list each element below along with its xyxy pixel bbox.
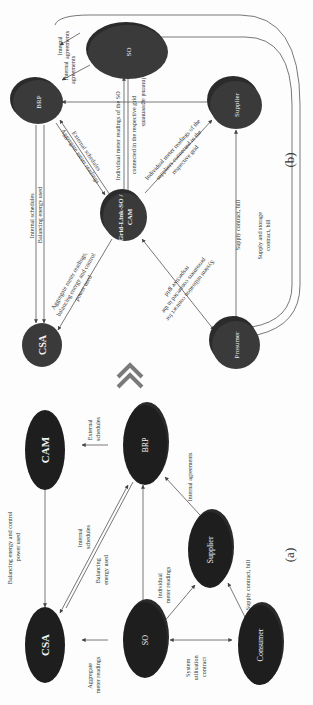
svg-text:SO: SO: [141, 635, 150, 645]
node-brp: BRP: [123, 402, 169, 485]
double-chevron-icon: [118, 365, 142, 387]
label-consumer-supplier: Supply contract, bill: [244, 560, 251, 611]
svg-text:SO: SO: [125, 48, 133, 57]
svg-text:CSA: CSA: [39, 634, 51, 656]
label-b-brp-gridlink: External schedules Aggregate meter readi…: [60, 123, 109, 185]
label-supplier-brp: Internal agreements: [186, 452, 193, 502]
rotated-canvas: CAM BRP Supplier CSA SO Consumer Ba: [0, 0, 313, 705]
svg-text:CSA: CSA: [37, 334, 48, 355]
panel-a: CAM BRP Supplier CSA SO Consumer Ba: [6, 402, 297, 693]
node-consumer: Consumer: [238, 602, 284, 685]
svg-text:Supplier: Supplier: [206, 536, 215, 563]
svg-text:Consumer: Consumer: [256, 628, 265, 661]
node-b-csa: CSA: [22, 323, 62, 367]
label-b-loop: Supply and storage contract, bill: [256, 211, 271, 260]
label-b-brp-so-2: Internal agreements: [62, 55, 76, 84]
caption-b: (b): [282, 152, 297, 167]
label-b-brp-so-1: Internal agreements: [56, 30, 70, 59]
label-brp-csa-2: Balancing energy used: [94, 554, 109, 585]
panel-b: BRP SO Supplier Grid-Link-SO / CAM CSA: [10, 15, 300, 369]
svg-text:CAM: CAM: [39, 436, 51, 463]
svg-text:Supplier: Supplier: [233, 92, 241, 116]
label-b-brp-csa: Internal schedules Balancing energy used: [28, 186, 43, 243]
node-b-gridlink: Grid-Link-SO / CAM: [100, 189, 147, 241]
svg-text:Prosumer: Prosumer: [233, 331, 241, 359]
edge-brp-csa-1: [60, 485, 128, 613]
label-b-so-gridlink: Individual meter readings of the SO conn…: [114, 90, 137, 180]
label-so-supplier: Individual meter readings: [156, 566, 171, 603]
caption-a: (a): [282, 548, 297, 562]
figure-root: CAM BRP Supplier CSA SO Consumer Ba: [0, 0, 313, 705]
node-supplier: Supplier: [188, 509, 234, 588]
edge-consumer-supplier: [228, 583, 245, 617]
node-b-brp: BRP: [10, 77, 63, 124]
svg-text:BRP: BRP: [35, 95, 43, 108]
node-b-prosumer: Prosumer: [209, 316, 260, 369]
node-so: SO: [123, 599, 169, 678]
edge-supplier-brp: [165, 477, 200, 515]
label-so-csa: Aggregate meter readings: [86, 656, 101, 693]
svg-text:BRP: BRP: [141, 437, 150, 453]
label-b-gridlink-prosumer: System utilisation contract for prosumer…: [151, 249, 216, 323]
node-b-so: SO: [86, 22, 168, 79]
label-b-gridlink-supplier: Individual meter readings of the supplie…: [143, 116, 214, 192]
label-brp-cam: External schedules: [86, 416, 101, 441]
node-cam: CAM: [25, 410, 65, 490]
label-b-brp-supplier: Internal agreements: [141, 78, 148, 128]
node-csa: CSA: [25, 607, 65, 683]
label-b-supplier-prosumer: Supply contract, bill: [234, 200, 241, 251]
label-so-consumer: System utilisation contract: [184, 654, 207, 680]
node-b-supplier: Supplier: [207, 76, 262, 129]
label-brp-csa-1: Internal schedules: [76, 524, 91, 549]
label-b-gridlink-csa: Aggregate meter readings, balancing ener…: [48, 246, 105, 321]
label-cam-csa: Balancing energy and control power used: [6, 510, 21, 584]
